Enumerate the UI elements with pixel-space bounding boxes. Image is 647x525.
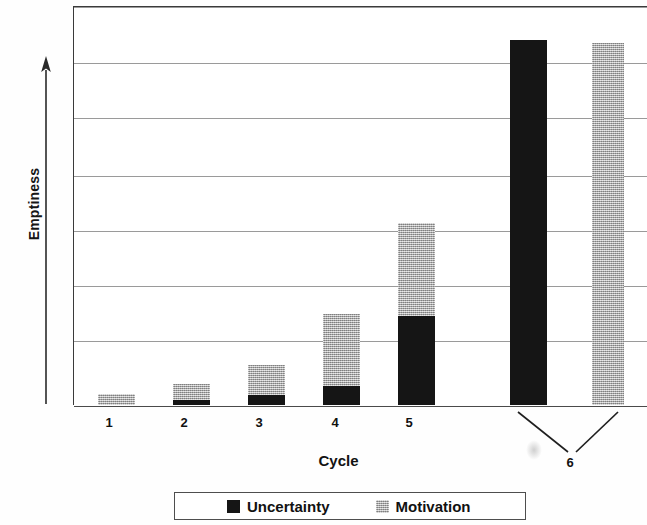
legend-entry-uncertainty[interactable]: Uncertainty	[227, 498, 330, 515]
bar-segment-motivation	[323, 314, 360, 386]
bar-cycle-5	[398, 223, 435, 405]
bar-segment-motivation	[248, 365, 285, 395]
x-tick-label-2: 2	[164, 415, 204, 430]
gridline	[74, 7, 647, 8]
bar-segment-uncertainty	[510, 40, 547, 405]
gridline	[74, 176, 647, 177]
bar-segment-motivation	[173, 384, 210, 400]
gridline	[74, 341, 647, 342]
legend-entry-motivation[interactable]: Motivation	[376, 498, 471, 515]
up-arrow-icon	[38, 56, 54, 404]
x-axis-title: Cycle	[0, 452, 647, 469]
bar-cycle-1	[98, 394, 135, 405]
bar-cycle-4	[323, 314, 360, 405]
x-tick-label-3: 3	[239, 415, 279, 430]
bar-segment-uncertainty	[323, 386, 360, 405]
bar-cycle-6a	[510, 40, 547, 405]
chart-legend: Uncertainty Motivation	[174, 492, 526, 520]
gridline	[74, 231, 647, 232]
x-tick-label-5: 5	[389, 415, 429, 430]
bar-segment-uncertainty	[248, 395, 285, 405]
chart-figure: Emptiness 12345 6 Cycle Uncertainty Moti…	[0, 0, 647, 525]
gray-stipple-swatch	[376, 500, 389, 513]
legend-label-uncertainty: Uncertainty	[247, 498, 330, 515]
bar-segment-motivation	[592, 43, 624, 405]
bar-segment-motivation	[98, 394, 135, 405]
bar-segment-motivation	[398, 223, 435, 316]
x-tick-label-4: 4	[315, 415, 355, 430]
black-square-swatch	[227, 500, 240, 513]
bar-segment-uncertainty	[173, 400, 210, 405]
x-tick-label-1: 1	[89, 415, 129, 430]
bar-cycle-6b	[592, 43, 624, 405]
gridline	[74, 286, 647, 287]
bar-cycle-3	[248, 365, 285, 405]
gridline	[74, 118, 647, 119]
plot-area	[73, 6, 647, 405]
bar-segment-uncertainty	[398, 316, 435, 405]
x-axis-baseline	[74, 406, 647, 407]
gridline	[74, 63, 647, 64]
legend-label-motivation: Motivation	[396, 498, 471, 515]
bar-cycle-2	[173, 384, 210, 405]
